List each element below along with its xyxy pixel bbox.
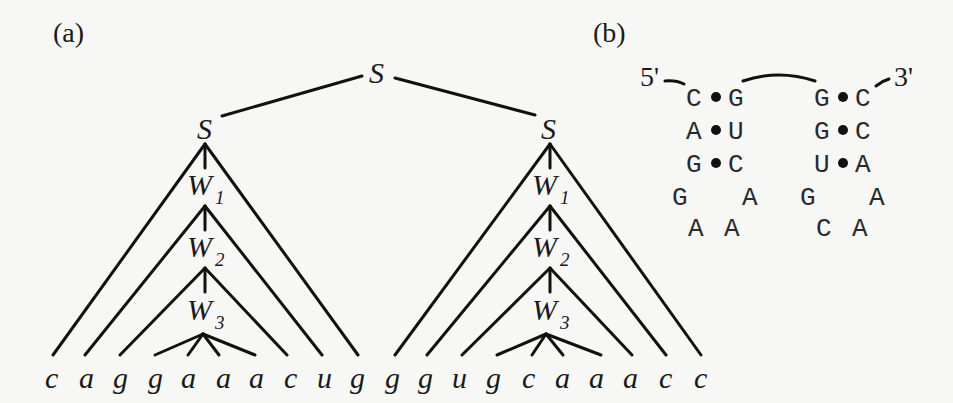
- right-w3-node: W: [532, 293, 560, 326]
- base-pair-dot: [838, 125, 848, 135]
- panel-label-a: (a): [53, 17, 84, 48]
- five-prime-label: 5': [640, 61, 659, 92]
- right-w1-sub: 1: [560, 187, 570, 208]
- rna-structure: 5' 3' C G A U G C G A A A G C G: [640, 61, 913, 244]
- right-w1-node: W: [532, 168, 560, 201]
- left-w2-node: W: [187, 230, 215, 263]
- loop-base: A: [852, 214, 868, 244]
- left-w1-sub: 1: [215, 187, 225, 208]
- loop-base: A: [869, 183, 885, 213]
- three-prime-label: 3': [894, 61, 913, 92]
- leaf: c: [45, 361, 58, 394]
- base: G: [686, 150, 702, 180]
- loop-base: C: [816, 214, 832, 244]
- leaf: g: [350, 361, 365, 394]
- base: U: [728, 117, 744, 147]
- base-pair-dot: [838, 158, 848, 168]
- edge-root-left: [222, 76, 362, 116]
- base-pair-dot: [711, 92, 721, 102]
- five-prime-strand: [665, 81, 684, 84]
- leaf: a: [589, 361, 604, 394]
- leaf: a: [216, 361, 231, 394]
- base-pair-dot: [711, 125, 721, 135]
- leaf: c: [522, 361, 535, 394]
- loop-base: A: [742, 183, 758, 213]
- leaf: g: [385, 361, 400, 394]
- panel-label-b: (b): [593, 17, 626, 48]
- leaf: c: [659, 361, 672, 394]
- loop-base: A: [688, 214, 704, 244]
- root-node: S: [369, 56, 384, 89]
- base: C: [686, 84, 702, 114]
- connecting-strand: [743, 75, 815, 81]
- loop-base: A: [724, 214, 740, 244]
- left-stem-node: S: [197, 112, 212, 145]
- edge-left-s-c: [53, 144, 205, 355]
- right-hairpin: G C G C U A G A C A: [800, 84, 885, 244]
- parse-tree: S S W 1 W 2 W 3 S W 1: [45, 56, 707, 394]
- base: A: [686, 117, 702, 147]
- leaf: c: [694, 361, 707, 394]
- base-pair-dot: [838, 92, 848, 102]
- base: G: [814, 84, 830, 114]
- base-pair-dot: [711, 158, 721, 168]
- left-w1-node: W: [187, 168, 215, 201]
- left-hairpin: C G A U G C G A A A: [672, 84, 758, 244]
- base: G: [728, 84, 744, 114]
- three-prime-strand: [876, 79, 889, 86]
- loop-base: G: [800, 183, 816, 213]
- base: G: [814, 117, 830, 147]
- base: C: [855, 84, 871, 114]
- left-w2-sub: 2: [215, 249, 225, 270]
- right-w2-node: W: [532, 230, 560, 263]
- leaf: a: [79, 361, 94, 394]
- left-w3-sub: 3: [214, 312, 225, 333]
- leaf: u: [317, 361, 332, 394]
- base: C: [728, 150, 744, 180]
- leaf: a: [249, 361, 264, 394]
- leaf: c: [284, 361, 297, 394]
- edge-root-right: [395, 78, 535, 115]
- edge-left-s-g: [205, 144, 358, 355]
- leaf-sequence: c a g g a a a c u g g g u g c a a a c c: [45, 361, 707, 394]
- right-stem-node: S: [541, 112, 556, 145]
- edge-right-s-c: [550, 144, 701, 355]
- loop-base: G: [672, 183, 688, 213]
- leaf: g: [418, 361, 433, 394]
- leaf: g: [148, 361, 163, 394]
- base: C: [855, 117, 871, 147]
- right-w3-sub: 3: [559, 312, 570, 333]
- left-w3-node: W: [187, 293, 215, 326]
- leaf: a: [623, 361, 638, 394]
- leaf: a: [181, 361, 196, 394]
- leaf: u: [452, 361, 467, 394]
- edge-right-s-g: [395, 144, 550, 355]
- leaf: g: [486, 361, 501, 394]
- leaf: g: [113, 361, 128, 394]
- base: U: [814, 150, 830, 180]
- figure-canvas: (a) (b) S S W 1 W 2 W 3 S: [0, 0, 953, 403]
- right-w2-sub: 2: [560, 249, 570, 270]
- base: A: [855, 150, 871, 180]
- leaf: a: [555, 361, 570, 394]
